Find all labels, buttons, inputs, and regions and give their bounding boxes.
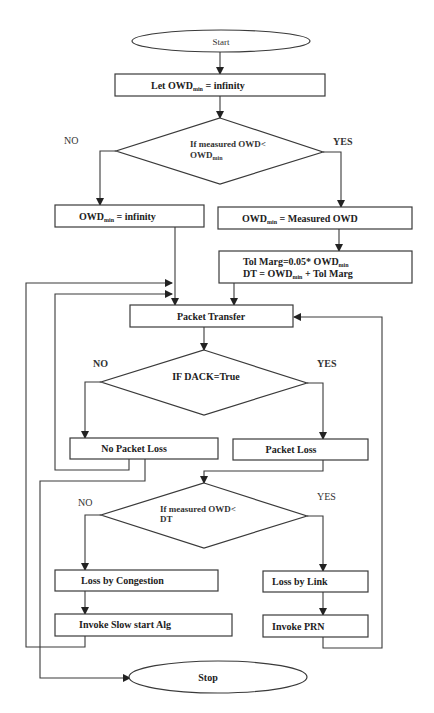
- start-label: Start: [213, 37, 230, 47]
- decision1-no-label: NO: [64, 135, 78, 146]
- arrow-d2-no: [85, 382, 101, 438]
- arrow-d2-yes: [307, 383, 323, 439]
- decision3-yes-label: YES: [317, 491, 336, 502]
- stop-label: Stop: [198, 672, 218, 683]
- invoke-prn-node: Invoke PRN: [263, 615, 368, 637]
- invoke-prn-label: Invoke PRN: [272, 621, 325, 632]
- arrow-prn-pt: [294, 317, 382, 648]
- arrow-slowstart-pt: [26, 283, 172, 647]
- svg-text:Tol Marg=0.05* OWDmin: Tol Marg=0.05* OWDmin: [243, 256, 349, 268]
- decision2-node: IF DACK=True: [101, 350, 307, 415]
- loss-link-node: Loss by Link: [263, 571, 368, 592]
- start-node: Start: [132, 30, 310, 52]
- slow-start-label: Invoke Slow start Alg: [79, 619, 171, 630]
- loss-congestion-label: Loss by Congestion: [81, 575, 164, 586]
- init-node: Let OWDmin = infinity: [115, 74, 325, 96]
- decision3-line2: DT: [160, 514, 173, 524]
- decision3-node: If measured OWD< DT: [101, 483, 307, 548]
- arrow-d3-yes: [307, 516, 323, 571]
- arrow-packetloss-decision3: [204, 460, 323, 483]
- flowchart: Start Let OWDmin = infinity If measured …: [0, 0, 434, 713]
- loss-congestion-node: Loss by Congestion: [55, 570, 218, 591]
- decision3-no-label: NO: [78, 497, 92, 508]
- no-packet-loss-node: No Packet Loss: [70, 438, 218, 459]
- packet-transfer-label: Packet Transfer: [177, 311, 246, 322]
- tol-marg-node: Tol Marg=0.05* OWDmin DT = OWDmin + Tol …: [219, 251, 412, 283]
- svg-text:OWDmin = infinity: OWDmin = infinity: [79, 211, 156, 223]
- arrow-d3-no: [85, 515, 101, 570]
- arrow-d1-no: [100, 151, 116, 205]
- owd-infinity-node: OWDmin = infinity: [55, 205, 204, 227]
- loss-link-label: Loss by Link: [272, 576, 328, 587]
- decision1-node: If measured OWD< OWDmin: [116, 118, 323, 184]
- no-packet-loss-label: No Packet Loss: [101, 443, 167, 454]
- svg-text:OWDmin = Measured OWD: OWDmin = Measured OWD: [242, 213, 358, 225]
- arrow-nopacketloss-stop: [40, 459, 145, 678]
- packet-loss-label: Packet Loss: [266, 444, 317, 455]
- decision1-yes-label: YES: [333, 136, 353, 147]
- decision1-line1: If measured OWD<: [190, 139, 266, 149]
- decision2-no-label: NO: [93, 358, 108, 369]
- init-label-main: Let OWD: [151, 80, 193, 91]
- packet-loss-node: Packet Loss: [233, 439, 368, 460]
- slow-start-node: Invoke Slow start Alg: [55, 614, 232, 636]
- packet-transfer-node: Packet Transfer: [130, 305, 293, 327]
- decision2-yes-label: YES: [317, 358, 337, 369]
- stop-node: Stop: [129, 661, 307, 693]
- owd-measured-node: OWDmin = Measured OWD: [218, 207, 412, 229]
- arrow-d1-yes: [323, 152, 341, 207]
- decision2-label: IF DACK=True: [172, 371, 240, 382]
- decision3-line1: If measured OWD<: [160, 504, 236, 514]
